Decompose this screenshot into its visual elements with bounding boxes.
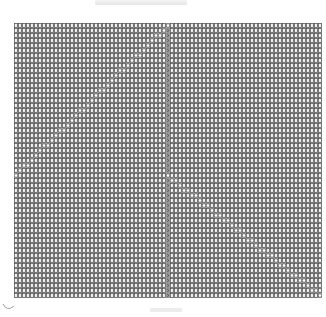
grid-cell-box [19,69,22,73]
grid-cell-box [227,154,230,158]
grid-marker-circle [238,229,241,233]
grid-cell-box [131,129,134,133]
grid-cell-box [131,139,134,143]
grid-cell-box [71,279,74,283]
grid-cell-box [299,239,302,243]
grid-cell-box [287,164,290,168]
grid-cell-box [251,49,254,53]
grid-cell-box [151,84,154,88]
grid-cell-box [75,24,78,28]
grid-cell-box [23,224,26,228]
grid-cell-box [111,94,114,98]
grid-cell-box [307,214,310,218]
grid-cell-box [91,259,94,263]
grid-cell-box [143,219,146,223]
grid-cell-box [179,284,182,288]
grid-cell-box [19,119,22,123]
grid-cell-box [139,229,142,233]
grid-cell-box [255,279,258,283]
grid-cell-box [119,264,122,268]
grid-cell-box [71,199,74,203]
grid-cell-box [95,244,98,248]
grid-cell-box [75,209,78,213]
grid-cell-box [139,159,142,163]
grid-cell-box [291,204,294,208]
grid-cell-box [83,49,86,53]
grid-cell-box [27,84,30,88]
grid-cell-box [43,99,46,103]
grid-cell-box [275,44,278,48]
grid-cell-box [283,209,286,213]
grid-cell-box [191,139,194,143]
grid-cell-box [83,194,86,198]
grid-cell-box [115,84,118,88]
grid-cell-box [299,119,302,123]
grid-cell-box [203,219,206,223]
grid-cell-box [207,99,210,103]
grid-cell-box [143,169,146,173]
grid-cell-box [287,149,290,153]
grid-cell-box [299,29,302,33]
grid-cell-box [15,104,18,108]
grid-cell-box [175,294,178,298]
grid-cell-box [271,124,274,128]
grid-cell-box [283,289,286,293]
grid-cell-box [231,219,234,223]
grid-cell-box [207,69,210,73]
grid-cell-box [27,159,30,163]
grid-cell-box [39,99,42,103]
grid-cell-box [35,254,38,258]
grid-cell-box [99,79,102,83]
grid-cell-box [199,204,202,208]
grid-cell-box [267,229,270,233]
grid-cell-box [255,224,258,228]
grid-cell-box [39,49,42,53]
grid-cell-box [83,24,86,28]
grid-cell-box [291,219,294,223]
grid-cell-box [143,29,146,33]
grid-cell-box [155,234,158,238]
grid-center-mark [167,94,169,97]
grid-cell-box [27,259,30,263]
grid-cell-box [191,24,194,28]
grid-cell-box [287,39,290,43]
grid-cell-box [223,49,226,53]
grid-cell-box [227,99,230,103]
grid-cell-box [23,89,26,93]
grid-cell-box [267,214,270,218]
grid-cell-box [115,109,118,113]
grid-cell-box [307,224,310,228]
grid-cell-box [51,94,54,98]
grid-cell-box [275,29,278,33]
grid-cell-box [47,129,50,133]
grid-cell-box [199,164,202,168]
grid-cell-box [187,249,190,253]
grid-cell-box [151,64,154,68]
grid-marker-circle [318,294,321,298]
grid-cell-box [203,239,206,243]
grid-cell-box [127,164,130,168]
grid-cell-box [203,44,206,48]
grid-cell-box [271,24,274,28]
grid-cell-box [99,284,102,288]
grid-cell-box [55,154,58,158]
grid-cell-box [215,294,218,298]
grid-cell-box [175,29,178,33]
grid-cell-box [139,269,142,273]
grid-cell-box [247,54,250,58]
grid-cell-box [295,204,298,208]
grid-cell-box [271,39,274,43]
grid-cell-box [251,139,254,143]
grid-cell-box [135,194,138,198]
grid-cell-box [15,54,18,58]
grid-cell-box [223,269,226,273]
grid-cell-box [231,234,234,238]
grid-cell-box [171,289,174,293]
grid-cell-box [275,169,278,173]
grid-cell-box [115,89,118,93]
grid-cell-box [199,94,202,98]
grid-cell-box [115,44,118,48]
grid-cell-box [91,179,94,183]
grid-cell-box [215,254,218,258]
grid-cell-box [211,144,214,148]
